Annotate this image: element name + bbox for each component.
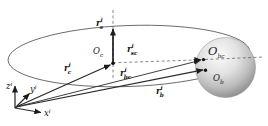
z-axis-label: zi bbox=[5, 81, 12, 92]
figure-canvas: zi yi xi ris ric risc ribc rib Oc Obc Ob bbox=[0, 0, 268, 126]
celestial-body-sphere bbox=[196, 38, 256, 98]
x-axis-label: xi bbox=[44, 108, 51, 119]
vector-to-body-center-label: ribc bbox=[120, 67, 132, 80]
observer-point bbox=[111, 61, 115, 65]
orbit-geometry-diagram: zi yi xi ris ric risc ribc rib Oc Obc Ob bbox=[0, 0, 268, 126]
up-vector-label: ris bbox=[96, 17, 104, 30]
observer-to-body-dashed-vector bbox=[113, 60, 201, 63]
body-center-point bbox=[202, 58, 205, 61]
observer-to-body-vector-label: risc bbox=[127, 43, 138, 56]
vector-to-body bbox=[16, 70, 203, 107]
x-axis-arrow bbox=[15, 108, 41, 113]
y-axis-label: yi bbox=[29, 84, 37, 95]
body-point bbox=[204, 69, 207, 72]
observer-point-label: Oc bbox=[93, 46, 104, 58]
vector-to-body-center bbox=[16, 60, 201, 107]
vector-to-observer-label: ric bbox=[64, 62, 72, 75]
vector-to-body-label: rib bbox=[156, 85, 164, 98]
